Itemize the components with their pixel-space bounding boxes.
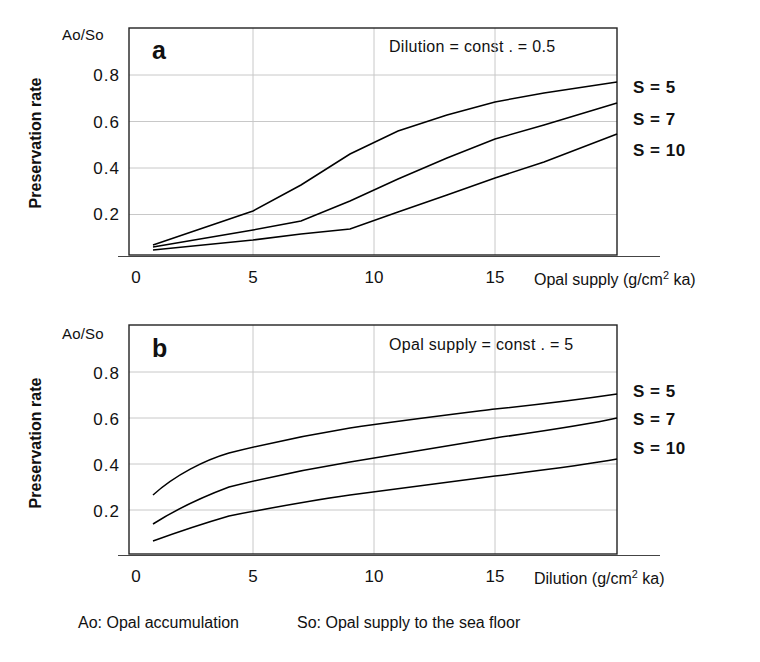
panel-a-curve-s5 [153,82,617,245]
panel-b-series-label-s10: S = 10 [633,439,686,459]
panel-b-frame [129,325,617,554]
caption-left: Ao: Opal accumulation [78,614,239,632]
panel-b-x-tick-3: 15 [475,567,515,587]
caption-right: So: Opal supply to the sea floor [297,614,520,632]
panel-a-x-axis-title-main: Opal supply (g/cm [534,271,663,288]
panel-a-x-tick-0: 0 [116,268,156,288]
panel-b-curve-s10 [153,459,617,541]
panel-b-series-label-s5: S = 5 [633,382,676,402]
panel-b-x-tick-0: 0 [116,567,156,587]
panel-b-curve-s5 [153,394,617,495]
panel-b-series-label-s7: S = 7 [633,410,676,430]
chart-panel-a: Preservation rate Ao/So 0.8 0.6 0.4 0.2 … [0,0,760,310]
panel-b-x-axis-title-main: Dilution (g/cm [534,570,632,587]
panel-a-curve-s7 [153,103,617,247]
panel-b-x-tick-2: 10 [354,567,394,587]
panel-b-x-axis-title-tail: ka) [638,570,665,587]
panel-b-gridlines [129,325,617,554]
panel-b-x-axis-title: Dilution (g/cm2 ka) [534,568,665,588]
panel-a-x-tick-2: 10 [354,268,394,288]
panel-a-x-tick-1: 5 [233,268,273,288]
panel-a-series-label-s10: S = 10 [633,141,686,161]
panel-a-x-axis-title-tail: ka) [669,271,696,288]
panel-a-curve-s10 [153,134,617,250]
panel-a-x-tick-3: 15 [475,268,515,288]
panel-a-series-label-s7: S = 7 [633,110,676,130]
panel-b-curve-s7 [153,418,617,524]
panel-a-series-label-s5: S = 5 [633,78,676,98]
panel-a-x-axis-title: Opal supply (g/cm2 ka) [534,269,696,289]
chart-panel-b: Preservation rate Ao/So 0.8 0.6 0.4 0.2 … [0,297,760,607]
panel-b-x-tick-1: 5 [233,567,273,587]
figure-root: Preservation rate Ao/So 0.8 0.6 0.4 0.2 … [0,0,760,662]
